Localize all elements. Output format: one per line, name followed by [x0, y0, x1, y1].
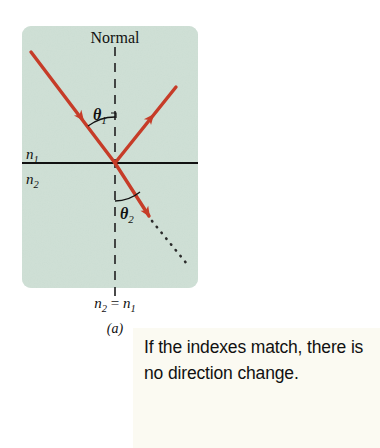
annotation-callout: If the indexes match, there is no direct…	[133, 328, 380, 448]
panel-label: (a)	[107, 321, 124, 337]
refraction-figure: Normal n1 n2 θ1 θ2 n2 = n1 (a) If the in…	[0, 0, 380, 448]
normal-label: Normal	[91, 29, 140, 46]
annotation-text: If the indexes match, there is no direct…	[144, 334, 376, 386]
condition-label: n2 = n1	[94, 295, 135, 314]
